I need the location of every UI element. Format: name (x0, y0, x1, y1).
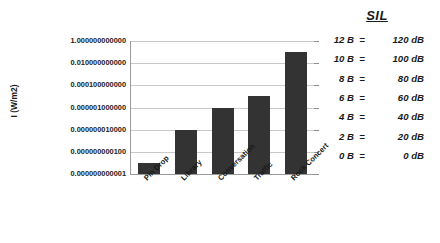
sil-equals-sign: = (354, 92, 370, 103)
sil-decibel-value: 40 dB (370, 111, 424, 122)
sil-bels-value: 2 B (318, 131, 354, 142)
sil-row: 4 B=40 dB (318, 107, 436, 126)
y-tick-label: 0.000001000000 (28, 103, 126, 113)
sil-decibel-value: 80 dB (370, 73, 424, 84)
y-tick-label: 0.000000000001 (28, 169, 126, 179)
sil-row: 10 B=100 dB (318, 49, 436, 68)
sil-bels-value: 8 B (318, 73, 354, 84)
sil-row: 6 B=60 dB (318, 88, 436, 107)
y-axis-tick-mark (314, 174, 319, 175)
y-axis-title: I (W/m2) (9, 61, 19, 141)
sil-bels-value: 10 B (318, 53, 354, 64)
y-tick-label: 0.000100000000 (28, 80, 126, 90)
sil-bels-value: 4 B (318, 111, 354, 122)
sound-intensity-level-figure: I (W/m2) 1.0000000000000.0100000000000.0… (0, 0, 440, 243)
y-tick-label: 0.010000000000 (28, 58, 126, 68)
sil-row: 8 B=80 dB (318, 69, 436, 88)
y-tick-label: 0.000000000100 (28, 147, 126, 157)
y-tick-label: 0.000000010000 (28, 125, 126, 135)
sil-equals-sign: = (354, 53, 370, 64)
sil-row: 2 B=20 dB (318, 126, 436, 145)
y-tick-label: 1.000000000000 (28, 36, 126, 46)
sil-table: SIL 12 B=120 dB10 B=100 dB8 B=80 dB6 B=6… (318, 8, 436, 165)
sil-row: 0 B=0 dB (318, 146, 436, 165)
sil-equals-sign: = (354, 131, 370, 142)
sil-table-rows: 12 B=120 dB10 B=100 dB8 B=80 dB6 B=60 dB… (318, 30, 436, 165)
sil-table-title: SIL (318, 8, 436, 23)
sil-equals-sign: = (354, 73, 370, 84)
bar-series (131, 41, 314, 174)
sil-bels-value: 6 B (318, 92, 354, 103)
sil-equals-sign: = (354, 111, 370, 122)
plot-area (130, 41, 314, 175)
sil-bels-value: 12 B (318, 34, 354, 45)
sil-equals-sign: = (354, 34, 370, 45)
x-axis-category-labels: Pin DropLibraryConversationTrafficRock C… (130, 176, 330, 243)
sil-row: 12 B=120 dB (318, 30, 436, 49)
bar (285, 52, 307, 174)
sil-bels-value: 0 B (318, 150, 354, 161)
sil-decibel-value: 20 dB (370, 131, 424, 142)
sil-decibel-value: 60 dB (370, 92, 424, 103)
sil-decibel-value: 100 dB (370, 53, 424, 64)
sil-decibel-value: 0 dB (370, 150, 424, 161)
sil-decibel-value: 120 dB (370, 34, 424, 45)
sil-equals-sign: = (354, 150, 370, 161)
y-axis-tick-labels: 1.0000000000000.0100000000000.0001000000… (28, 36, 126, 174)
